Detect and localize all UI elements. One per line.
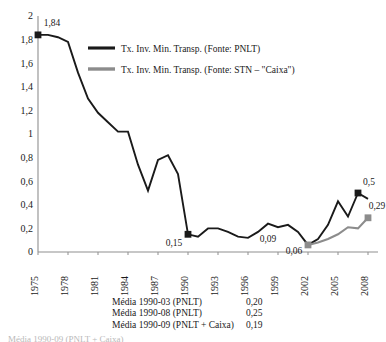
data-point-marker (185, 231, 192, 238)
cropped-bottom-caption: Média 1990-09 (PNLT + Caixa) (8, 334, 378, 342)
y-axis-tick-label: 1,6 (21, 58, 34, 69)
data-point-label: 0,29 (369, 201, 386, 211)
averages-row: Média 1990-03 (PNLT)0,20 (112, 297, 263, 308)
y-axis-tick-label: 0,2 (21, 223, 34, 234)
y-axis-tick-label: 0 (28, 246, 33, 257)
x-axis-tick-label: 2005 (329, 276, 340, 296)
x-axis-tick-label: 1975 (29, 276, 40, 296)
x-axis-tick-label: 1981 (89, 276, 100, 296)
data-point-marker (355, 190, 362, 197)
legend-label-stn-caixa: Tx. Inv. Min. Transp. (Fonte: STN – "Cai… (121, 65, 295, 76)
data-point-label: 0,09 (260, 234, 277, 244)
y-axis-tick-label: 1,8 (21, 34, 34, 45)
y-axis-tick-label: 1 (28, 128, 33, 139)
averages-footnote: Média 1990-03 (PNLT)0,20Média 1990-08 (P… (112, 297, 312, 331)
legend-label-pnlt: Tx. Inv. Min. Transp. (Fonte: PNLT) (121, 44, 260, 55)
data-point-marker (365, 214, 372, 221)
data-point-label: 1,84 (44, 18, 61, 28)
x-axis-tick-label: 1990 (179, 276, 190, 296)
y-axis-tick-label: 0,4 (21, 199, 34, 210)
investment-rate-line-chart: 00,20,40,60,811,21,41,61,821975197819811… (0, 0, 386, 342)
y-axis-tick-label: 1,2 (21, 105, 34, 116)
data-point-label: 0,15 (166, 238, 183, 248)
y-axis-tick-label: 0,8 (21, 152, 34, 163)
averages-row: Média 1990-08 (PNLT)0,25 (112, 308, 263, 319)
y-axis-tick-label: 0,6 (21, 176, 34, 187)
averages-row-value: 0,19 (234, 320, 263, 331)
y-axis-tick-label: 2 (28, 10, 33, 21)
data-point-label: 0,06 (286, 246, 303, 256)
x-axis-tick-label: 2008 (359, 276, 370, 296)
data-point-label: 0,5 (363, 177, 375, 187)
x-axis-tick-label: 1978 (59, 276, 70, 296)
y-axis-tick-label: 1,4 (21, 81, 34, 92)
averages-row-value: 0,20 (234, 297, 263, 308)
x-axis-tick-label: 1984 (119, 276, 130, 296)
series-line-stn-caixa (308, 218, 368, 245)
averages-row-label: Média 1990-09 (PNLT + Caixa) (112, 320, 234, 331)
x-axis-tick-label: 1987 (149, 276, 160, 296)
averages-row-value: 0,25 (234, 308, 263, 319)
x-axis-tick-label: 1999 (269, 276, 280, 296)
x-axis-tick-label: 1996 (239, 276, 250, 296)
x-axis-tick-label: 2002 (299, 276, 310, 296)
averages-row-label: Média 1990-03 (PNLT) (112, 297, 234, 308)
x-axis-tick-label: 1993 (209, 276, 220, 296)
chart-figure: 00,20,40,60,811,21,41,61,821975197819811… (0, 0, 386, 342)
data-point-marker (305, 242, 312, 249)
data-point-marker (35, 31, 42, 38)
averages-row: Média 1990-09 (PNLT + Caixa)0,19 (112, 320, 263, 331)
averages-table: Média 1990-03 (PNLT)0,20Média 1990-08 (P… (112, 297, 263, 331)
averages-row-label: Média 1990-08 (PNLT) (112, 308, 234, 319)
